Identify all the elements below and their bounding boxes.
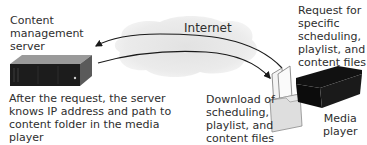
- player-label: Media player: [323, 112, 358, 138]
- server-label: Content management server: [10, 14, 84, 53]
- media-player-box-icon: [296, 66, 362, 108]
- server-note: After the request, the server knows IP a…: [9, 92, 171, 144]
- download-label: Download of scheduling, playlist, and co…: [206, 93, 275, 145]
- request-label: Request for specific scheduling, playlis…: [298, 4, 366, 69]
- server-rack-icon: [10, 55, 92, 86]
- internet-label: Internet: [184, 22, 232, 35]
